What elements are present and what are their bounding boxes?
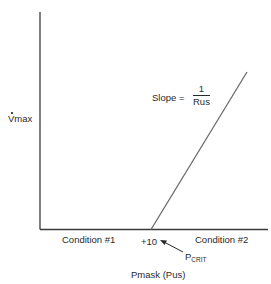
x-axis-label-text: Pmask (Pus) (131, 269, 185, 280)
condition-1-text: Condition #1 (62, 234, 115, 245)
y-axis-label-text: Vmax (8, 114, 32, 124)
condition-2-text: Condition #2 (195, 234, 248, 245)
threshold-value-label: +10 (141, 237, 157, 247)
pcrit-arrow-shaft (164, 242, 183, 252)
slope-fraction: 1 Rus (193, 84, 210, 106)
slope-numerator: 1 (199, 84, 204, 95)
slope-prefix-text: Slope = (152, 92, 185, 103)
slope-denominator: Rus (193, 96, 210, 107)
threshold-value-text: +10 (141, 236, 157, 247)
region-label-condition-1: Condition #1 (62, 235, 115, 245)
region-label-condition-2: Condition #2 (195, 235, 248, 245)
slope-label-prefix: Slope = (152, 93, 185, 103)
x-axis-label: Pmask (Pus) (131, 270, 185, 280)
pcrit-subscript: CRIT (191, 256, 206, 263)
pcrit-label: PCRIT (185, 252, 207, 264)
y-axis-label: Vmax (8, 114, 32, 124)
